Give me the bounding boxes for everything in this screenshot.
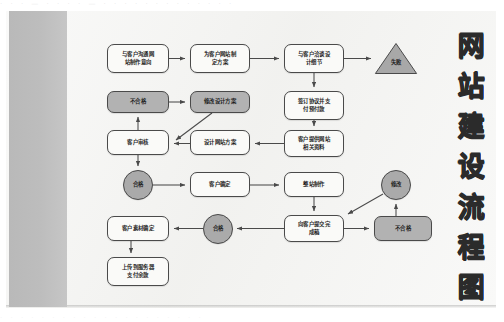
node-label: 修改设计方案 bbox=[204, 98, 236, 106]
node-qualified-draft[interactable]: 合格 bbox=[203, 214, 233, 244]
node-design-website-plan[interactable]: 设计网站方案 bbox=[190, 130, 250, 155]
node-label: 不合格 bbox=[395, 225, 411, 233]
node-full-site-production[interactable]: 整站制作 bbox=[284, 172, 344, 197]
node-label: 向客户提交完 成稿 bbox=[298, 221, 330, 237]
title-char: 网 bbox=[458, 33, 485, 60]
node-label: 客户素材确定 bbox=[122, 225, 154, 233]
node-label: 不合格 bbox=[130, 98, 146, 106]
title-char: 流 bbox=[458, 194, 485, 221]
node-upload-and-final-payment[interactable]: 上传到服务器 支付余款 bbox=[107, 257, 169, 286]
node-label: 客户审核 bbox=[127, 139, 148, 147]
node-revise-design-plan[interactable]: 修改设计方案 bbox=[190, 91, 250, 113]
node-discuss-details[interactable]: 与客户洽谈设 计细节 bbox=[284, 44, 344, 73]
scan-artifact-bottom: · · · · · · · · · · · · · · · · · · · · bbox=[0, 314, 504, 322]
node-unqualified-draft[interactable]: 不合格 bbox=[374, 216, 432, 241]
node-make-plan[interactable]: 为客户网站制 定方案 bbox=[190, 44, 250, 73]
node-sign-contract-prepay[interactable]: 签订协议并支 付预付款 bbox=[284, 91, 344, 120]
title-char: 设 bbox=[458, 153, 485, 180]
title-char: 程 bbox=[458, 234, 485, 261]
vertical-document-title: 网 站 建 设 流 程 图 bbox=[448, 33, 494, 301]
node-label: 设计网站方案 bbox=[204, 139, 236, 147]
node-revise[interactable]: 修改 bbox=[381, 170, 411, 200]
node-failure-triangle[interactable]: 失败 bbox=[374, 42, 418, 75]
node-client-confirm[interactable]: 客户确定 bbox=[190, 172, 250, 197]
node-label: 整站制作 bbox=[303, 181, 324, 189]
node-client-intent[interactable]: 与客户沟通网 站制作意向 bbox=[107, 44, 169, 73]
title-char: 图 bbox=[458, 274, 485, 301]
node-label: 客户提供网站 相关资料 bbox=[298, 136, 330, 152]
node-submit-final-draft[interactable]: 向客户提交完 成稿 bbox=[284, 215, 344, 242]
node-label: 上传到服务器 支付余款 bbox=[122, 264, 154, 280]
node-label: 修改 bbox=[391, 181, 402, 189]
node-label: 失败 bbox=[391, 59, 402, 67]
node-label: 与客户沟通网 站制作意向 bbox=[122, 51, 154, 67]
flowchart-connectors bbox=[0, 0, 504, 322]
node-label: 合格 bbox=[133, 181, 144, 189]
node-unqualified-design[interactable]: 不合格 bbox=[107, 91, 169, 113]
node-client-provides-materials[interactable]: 客户提供网站 相关资料 bbox=[284, 130, 344, 157]
node-label: 签订协议并支 付预付款 bbox=[298, 98, 330, 114]
node-label: 合格 bbox=[213, 225, 224, 233]
node-qualified-design[interactable]: 合格 bbox=[123, 170, 153, 200]
node-client-review[interactable]: 客户审核 bbox=[107, 130, 169, 155]
node-client-material-confirm[interactable]: 客户素材确定 bbox=[107, 216, 169, 241]
node-label: 与客户洽谈设 计细节 bbox=[298, 51, 330, 67]
flowchart-canvas: 与客户沟通网 站制作意向 为客户网站制 定方案 与客户洽谈设 计细节 失败 签订… bbox=[0, 0, 504, 322]
screenshot-page: · · · — · · · · — · · · · · · · · · · · … bbox=[0, 0, 504, 322]
node-label: 为客户网站制 定方案 bbox=[204, 51, 236, 67]
title-char: 建 bbox=[458, 113, 485, 140]
node-label: 客户确定 bbox=[209, 181, 230, 189]
title-char: 站 bbox=[458, 73, 485, 100]
